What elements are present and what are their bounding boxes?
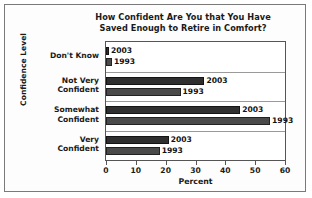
bar-2003 xyxy=(106,77,204,85)
y-category-label: Don't Know xyxy=(11,51,99,61)
bar-1993 xyxy=(106,88,181,96)
x-tick-label: 60 xyxy=(273,166,297,175)
y-category-label: SomewhatConfident xyxy=(11,105,99,124)
bar-1993 xyxy=(106,147,160,155)
x-tick xyxy=(255,161,256,165)
bar-1993 xyxy=(106,117,270,125)
chart-title-line-2-text: Saved Enough to Retire in Comfort? xyxy=(65,23,301,34)
x-tick-label: 40 xyxy=(213,166,237,175)
x-tick xyxy=(196,161,197,165)
chart-title-line-1-text: How Confident Are You that You Have xyxy=(65,12,301,23)
y-category-label: Not VeryConfident xyxy=(11,76,99,95)
x-tick xyxy=(106,161,107,165)
bar-value-label: 2003 xyxy=(171,135,192,144)
x-tick xyxy=(166,161,167,165)
bar-1993 xyxy=(106,58,112,66)
x-tick-label: 30 xyxy=(184,166,208,175)
y-category-label: VeryConfident xyxy=(11,135,99,154)
bar-2003 xyxy=(106,136,169,144)
bar-value-label: 1993 xyxy=(162,146,183,155)
bar-2003 xyxy=(106,47,109,55)
bar-2003 xyxy=(106,106,240,114)
bar-value-label: 1993 xyxy=(183,87,204,96)
bar-value-label: 1993 xyxy=(114,57,135,66)
x-tick xyxy=(285,161,286,165)
x-tick-label: 0 xyxy=(94,166,118,175)
x-tick-label: 10 xyxy=(124,166,148,175)
x-tick-label: 50 xyxy=(243,166,267,175)
category-band: 20031993 xyxy=(106,42,285,72)
x-tick xyxy=(225,161,226,165)
bar-value-label: 2003 xyxy=(206,76,227,85)
chart-title: How Confident Are You that You Have Save… xyxy=(65,12,301,34)
bar-value-label: 1993 xyxy=(272,116,293,125)
plot-area: 20031993200319932003199320031993 xyxy=(105,41,286,161)
category-band: 20031993 xyxy=(106,131,285,161)
y-axis-title: Confidence Level xyxy=(19,30,28,110)
category-band: 20031993 xyxy=(106,101,285,131)
bar-value-label: 2003 xyxy=(242,105,263,114)
x-tick xyxy=(136,161,137,165)
bar-value-label: 2003 xyxy=(111,46,132,55)
x-axis-ticks: 0102030405060 xyxy=(105,161,286,166)
x-tick-label: 20 xyxy=(154,166,178,175)
category-band: 20031993 xyxy=(106,72,285,102)
chart-figure: How Confident Are You that You Have Save… xyxy=(4,4,306,192)
x-axis-title: Percent xyxy=(105,177,286,186)
